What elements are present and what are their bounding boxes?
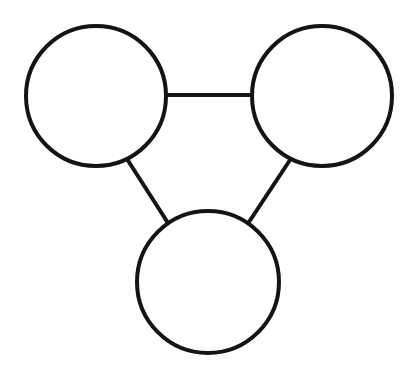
node-circle	[26, 26, 166, 166]
node-bottom	[137, 211, 279, 353]
node-circle	[137, 211, 279, 353]
edge-top-right-bottom	[249, 160, 290, 222]
graph-diagram	[0, 0, 406, 372]
node-top-left	[26, 26, 166, 166]
node-top-right	[252, 26, 392, 166]
nodes	[26, 26, 392, 353]
edge-top-left-bottom	[127, 159, 168, 223]
node-circle	[252, 26, 392, 166]
